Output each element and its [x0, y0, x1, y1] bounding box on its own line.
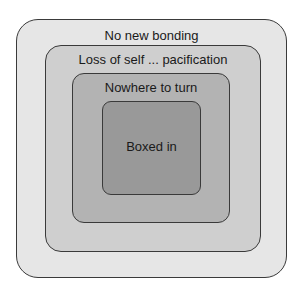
layer-label: Boxed in: [103, 139, 200, 154]
layer-label: Loss of self ... pacification: [46, 52, 260, 67]
layer-label: No new bonding: [17, 28, 286, 43]
layer-boxed-in: Boxed in: [102, 101, 201, 195]
layer-label: Nowhere to turn: [73, 80, 229, 95]
